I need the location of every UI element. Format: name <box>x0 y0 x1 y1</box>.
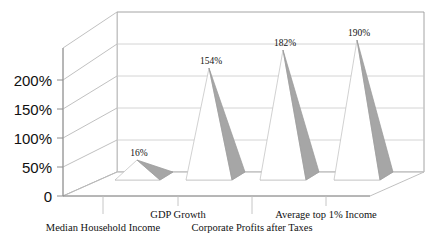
data-label-0: 16% <box>130 148 148 158</box>
y-axis-labels: 200% 150% 100% 50% 0 <box>14 72 52 205</box>
data-label-2: 182% <box>274 38 296 48</box>
y-label-0: 0 <box>44 188 52 205</box>
y-axis <box>57 48 63 196</box>
category-label-0: Median Household Income <box>46 222 161 233</box>
category-labels: Median Household Income GDP Growth Corpo… <box>46 209 377 233</box>
chart-container: 200% 150% 100% 50% 0 16% 154% 182% 190% … <box>0 0 441 243</box>
category-label-2: Corporate Profits after Taxes <box>191 222 312 233</box>
category-label-1: GDP Growth <box>150 209 206 220</box>
category-label-3: Average top 1% Income <box>275 209 377 220</box>
y-label-200: 200% <box>14 72 52 89</box>
y-label-100: 100% <box>14 130 52 147</box>
cone-chart: 200% 150% 100% 50% 0 16% 154% 182% 190% … <box>0 0 441 243</box>
y-label-150: 150% <box>14 101 52 118</box>
y-label-50: 50% <box>22 159 52 176</box>
data-label-1: 154% <box>200 56 222 66</box>
data-label-3: 190% <box>348 28 370 38</box>
